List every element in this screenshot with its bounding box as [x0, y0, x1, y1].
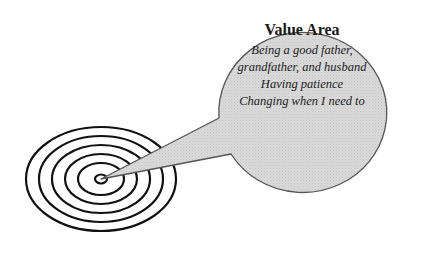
- diagram-canvas: Value Area Being a good father, grandfat…: [0, 0, 433, 259]
- target-bubble-graphic: [0, 0, 433, 259]
- bubble-line: Being a good father,: [236, 42, 368, 59]
- bubble-title: Value Area: [236, 20, 368, 40]
- bubble-line: Having patience: [236, 76, 368, 93]
- bubble-line: grandfather, and husband: [236, 59, 368, 76]
- bubble-text-block: Value Area Being a good father, grandfat…: [236, 20, 368, 110]
- bubble-line: Changing when I need to: [236, 93, 368, 110]
